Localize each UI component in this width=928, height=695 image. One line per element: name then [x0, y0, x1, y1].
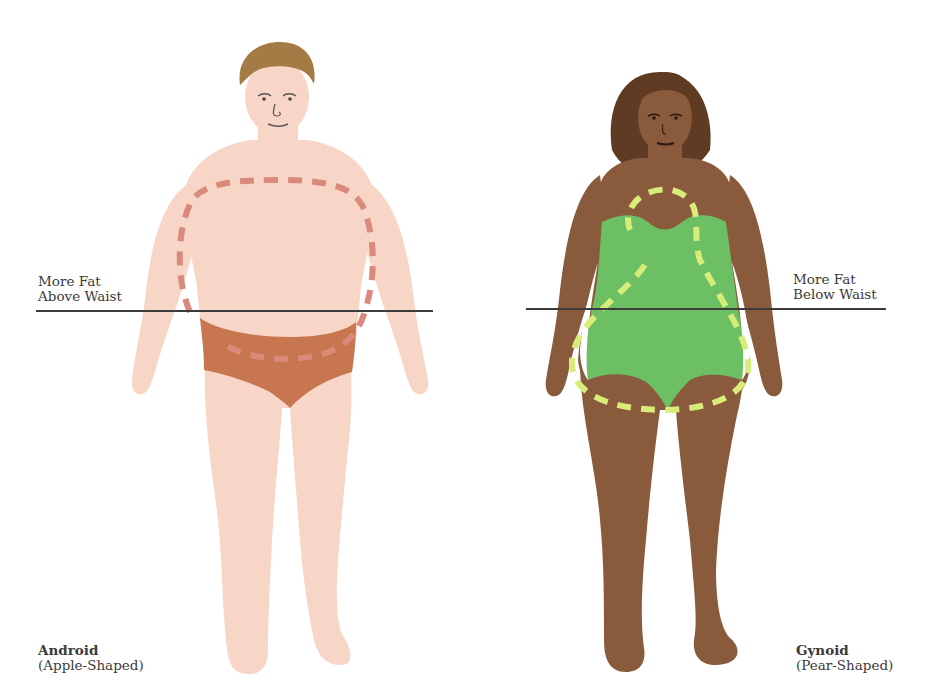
body-shape-diagram: More Fat Above Waist More Fat Below Wais… [0, 0, 928, 695]
gynoid-caption: Gynoid (Pear-Shaped) [796, 643, 893, 673]
android-waist-label: More Fat Above Waist [38, 274, 122, 304]
gynoid-waist-label: More Fat Below Waist [793, 272, 877, 302]
android-caption-subtitle: (Apple-Shaped) [38, 658, 144, 673]
gynoid-figure-illustration [0, 0, 928, 695]
gynoid-caption-subtitle: (Pear-Shaped) [796, 658, 893, 673]
gynoid-waist-label-line-2: Below Waist [793, 287, 877, 302]
gynoid-waist-line [526, 308, 886, 310]
android-caption-title: Android [38, 643, 144, 658]
gynoid-legs [580, 370, 743, 672]
gynoid-caption-title: Gynoid [796, 643, 893, 658]
android-waist-label-line-1: More Fat [38, 274, 122, 289]
android-waist-line [36, 310, 433, 312]
gynoid-waist-label-line-1: More Fat [793, 272, 877, 287]
android-caption: Android (Apple-Shaped) [38, 643, 144, 673]
android-waist-label-line-2: Above Waist [38, 289, 122, 304]
